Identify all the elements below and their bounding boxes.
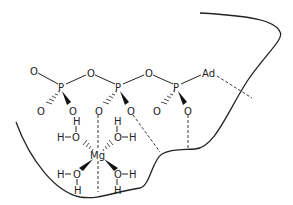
water4-oxygen: O [114,169,122,180]
p2-stereo-bonds [103,91,129,105]
p1-phosphorus: P [58,82,64,93]
bridge-oxygen-2: O [145,68,153,79]
water4-h-side: H [129,169,137,180]
water3-h-side: H [57,169,65,180]
water1-h-top: H [73,116,81,127]
atom-labels: O P O O O P O O O P Ad O O Mg O H H O H … [30,66,215,196]
water1-oxygen: O [72,132,80,143]
p3-oxygen-lower-left: O [153,106,161,117]
water2-h-top: H [114,116,122,127]
p2-oxygen-lower-left: O [95,106,103,117]
water2-oxygen: O [114,132,122,143]
p1-oxygen-lower-left: O [37,106,45,117]
mg-atp-diagram: O P O O O P O O O P Ad O O Mg O H H O H … [0,0,293,205]
water3-oxygen: O [73,169,81,180]
p2-phosphorus: P [115,82,121,93]
water1-h-side: H [57,132,65,143]
p3-oxygen-lower-right: O [184,106,192,117]
p3-phosphorus: P [173,82,179,93]
adenosine-label: Ad [202,68,215,79]
water2-h-side: H [129,132,137,143]
protein-surface-curve [16,13,281,198]
p1-oxygen-top-left: O [30,66,38,77]
p1-stereo-bonds [46,91,71,105]
water4-h-bottom: H [114,185,122,196]
bridge-oxygen-1: O [87,68,95,79]
p3-stereo-bonds [161,91,187,105]
water3-h-bottom: H [74,185,82,196]
magnesium-ion: Mg [90,150,105,161]
p2-oxygen-lower-right: O [127,106,135,117]
